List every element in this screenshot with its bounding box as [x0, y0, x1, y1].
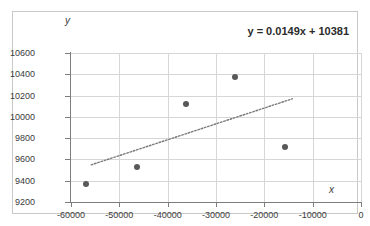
y-axis-tick — [65, 96, 70, 97]
y-axis-title: y — [65, 15, 70, 26]
scatter-point[interactable] — [134, 164, 140, 170]
scatter-point[interactable] — [83, 181, 89, 187]
x-axis-tick — [216, 202, 217, 207]
scatter-point[interactable] — [183, 101, 189, 107]
y-axis-tick — [65, 117, 70, 118]
scatter-point[interactable] — [232, 74, 238, 80]
gridline-vertical — [313, 53, 314, 202]
y-axis-tick — [65, 138, 70, 139]
gridline-vertical — [168, 53, 169, 202]
y-axis-tick-label: 9800 — [0, 133, 35, 143]
x-axis-tick — [313, 202, 314, 207]
x-axis-tick — [71, 202, 72, 207]
gridline-vertical — [119, 53, 120, 202]
x-axis-tick — [264, 202, 265, 207]
scatter-point[interactable] — [282, 144, 288, 150]
gridline-vertical — [361, 53, 362, 202]
y-axis-tick-label: 9600 — [0, 154, 35, 164]
y-axis-tick — [65, 74, 70, 75]
x-axis-tick-label: 0 — [331, 210, 370, 220]
y-axis-tick-label: 9200 — [0, 197, 35, 207]
y-axis-tick-label: 9400 — [0, 176, 35, 186]
x-axis-tick — [168, 202, 169, 207]
x-axis-tick — [361, 202, 362, 207]
y-axis-line — [70, 52, 71, 203]
plot-area — [71, 53, 361, 202]
y-axis-tick — [65, 202, 70, 203]
y-axis-tick-label: 10200 — [0, 91, 35, 101]
y-axis-tick-label: 10400 — [0, 69, 35, 79]
chart-frame: y = 0.0149x + 10381 y x 9200940096009800… — [12, 11, 358, 214]
trendline-equation-label: y = 0.0149x + 10381 — [247, 25, 349, 37]
x-axis-tick — [119, 202, 120, 207]
y-axis-tick — [65, 159, 70, 160]
y-axis-tick — [65, 53, 70, 54]
y-axis-tick — [65, 181, 70, 182]
gridline-vertical — [216, 53, 217, 202]
y-axis-tick-label: 10600 — [0, 48, 35, 58]
y-axis-tick-label: 10000 — [0, 112, 35, 122]
gridline-vertical — [264, 53, 265, 202]
